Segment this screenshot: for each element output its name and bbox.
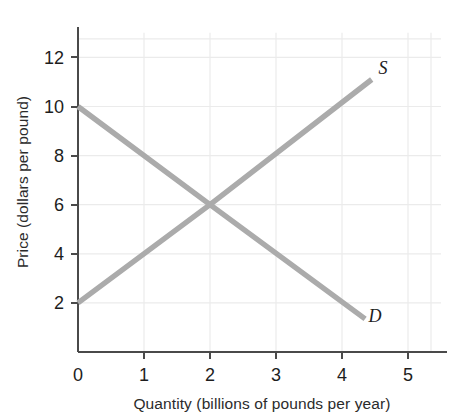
curve-supply xyxy=(78,79,372,302)
x-tick-label: 5 xyxy=(403,365,413,385)
gridlines xyxy=(78,33,441,352)
y-tick-label: 12 xyxy=(44,48,64,68)
y-tick-label: 2 xyxy=(54,293,64,313)
supply-demand-chart: 24681012012345 SD Quantity (billions of … xyxy=(0,0,462,417)
y-axis-title: Price (dollars per pound) xyxy=(14,96,31,268)
data-curves xyxy=(78,79,372,318)
y-tick-label: 6 xyxy=(54,195,64,215)
y-tick-label: 4 xyxy=(54,244,64,264)
curve-label-s: S xyxy=(378,58,387,78)
x-tick-label: 1 xyxy=(139,365,149,385)
x-axis-title: Quantity (billions of pounds per year) xyxy=(133,395,390,412)
curve-label-d: D xyxy=(368,306,382,326)
curve-labels: SD xyxy=(368,58,388,326)
curve-demand xyxy=(78,107,365,319)
origin-label: 0 xyxy=(73,365,83,385)
y-tick-label: 8 xyxy=(54,146,64,166)
chart-canvas: 24681012012345 SD Quantity (billions of … xyxy=(0,0,462,417)
y-tick-label: 10 xyxy=(44,97,64,117)
x-tick-label: 2 xyxy=(205,365,215,385)
x-tick-label: 3 xyxy=(271,365,281,385)
x-tick-label: 4 xyxy=(337,365,347,385)
